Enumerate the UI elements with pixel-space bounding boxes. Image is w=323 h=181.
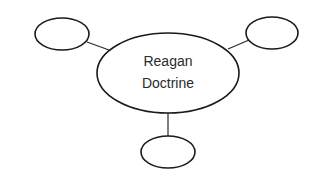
- central-ellipse: [97, 33, 239, 113]
- satellite-ellipse-upper-left: [35, 18, 89, 50]
- satellite-node-upper-right: [246, 17, 298, 49]
- concept-web-diagram: Reagan Doctrine: [0, 0, 323, 181]
- satellite-node-upper-left: [35, 18, 89, 50]
- satellite-ellipse-bottom: [141, 136, 195, 168]
- satellite-ellipse-upper-right: [246, 17, 298, 49]
- central-label-line-1: Reagan: [143, 53, 192, 69]
- satellite-node-bottom: [141, 136, 195, 168]
- connector-upper-right: [228, 40, 249, 49]
- central-node: Reagan Doctrine: [97, 33, 239, 113]
- central-label-line-2: Doctrine: [142, 75, 194, 91]
- connector-upper-left: [87, 42, 109, 50]
